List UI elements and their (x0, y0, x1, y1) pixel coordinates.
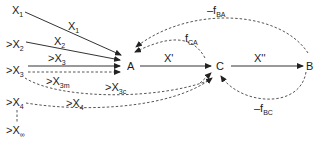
edge-x1 (25, 12, 121, 55)
edge-x2 (26, 42, 120, 60)
label-x3m: >X3m (46, 75, 70, 89)
edge-fbc (221, 72, 306, 99)
label-x-prime: X' (164, 52, 173, 64)
input-x2: >X2 (6, 38, 24, 52)
node-c: C (216, 60, 224, 72)
input-x3: >X3 (6, 64, 24, 78)
node-b: B (306, 60, 313, 72)
node-a: A (127, 60, 135, 72)
input-xinf: >X∞ (6, 124, 25, 138)
label-fbc: –fBC (254, 102, 273, 116)
flow-diagram: X1 >X2 >X3 >X4 >X∞ X1 X2 >X3 >X3m >X3c >… (0, 0, 317, 141)
label-x2: X2 (54, 35, 65, 49)
label-x4: >X4 (66, 97, 84, 111)
label-x3: >X3 (48, 52, 66, 66)
label-x1: X1 (68, 20, 79, 34)
label-fba: –fBA (207, 4, 226, 18)
label-x3c: >X3c (105, 81, 127, 95)
input-x1: X1 (12, 4, 23, 18)
edge-fba (136, 18, 308, 53)
label-fca: fCA (185, 32, 198, 46)
label-x-double-prime: X'' (254, 52, 266, 64)
input-x4: >X4 (6, 96, 24, 110)
